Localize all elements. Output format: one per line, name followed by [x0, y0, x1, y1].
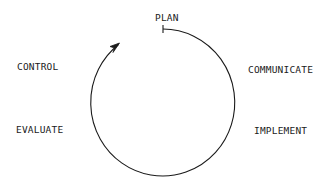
- cycle-diagram: [0, 0, 325, 191]
- stage-control: CONTROL: [17, 61, 58, 72]
- stage-evaluate: EVALUATE: [16, 124, 63, 135]
- stage-implement: IMPLEMENT: [254, 125, 307, 136]
- stage-communicate: COMMUNICATE: [248, 64, 313, 75]
- cycle-arc: [91, 29, 235, 176]
- stage-plan: PLAN: [155, 12, 179, 23]
